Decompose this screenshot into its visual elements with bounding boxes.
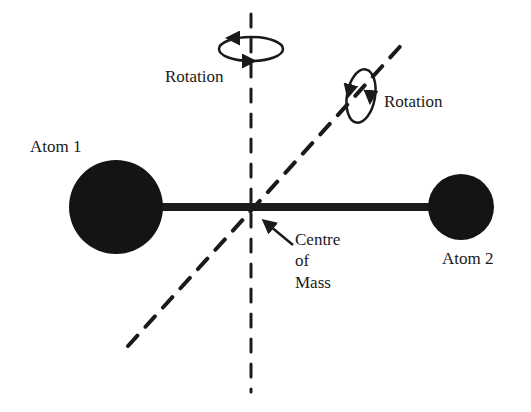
atom-1-label: Atom 1 (30, 137, 81, 156)
atom-2-label: Atom 2 (442, 249, 493, 268)
rotation-label-diagonal: Rotation (384, 92, 443, 111)
diagonal-rotation-icon (343, 67, 380, 125)
centre-of-mass-arrow (264, 221, 293, 245)
centre-of-mass-label-line2: of (295, 251, 310, 270)
centre-of-mass-label-line1: Centre (295, 230, 340, 249)
atom-2 (428, 174, 494, 240)
rotation-label-vertical: Rotation (165, 67, 224, 86)
atom-1 (69, 160, 163, 254)
centre-of-mass-label-line3: Mass (295, 273, 331, 292)
molecule-rotation-diagram: Rotation Rotation Atom 1 Atom 2 Centre o… (0, 0, 531, 412)
